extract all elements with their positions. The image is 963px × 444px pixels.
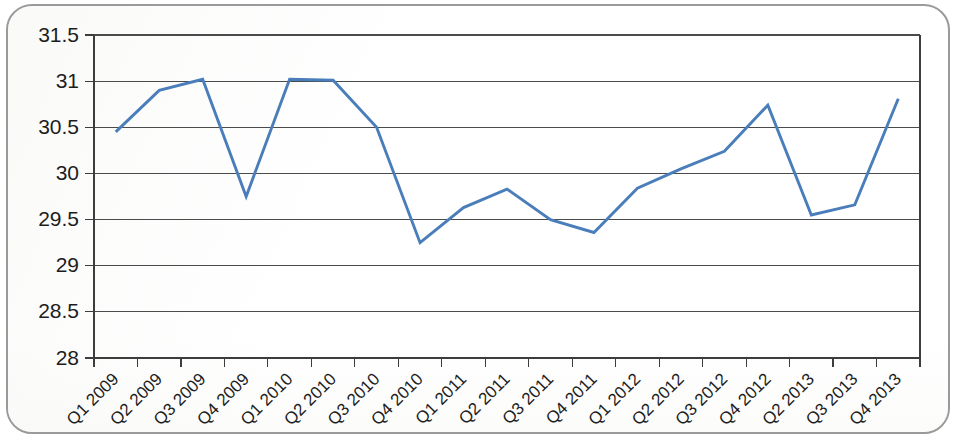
y-axis-tick-labels: 2828.52929.53030.53131.5	[38, 23, 79, 369]
gridlines-group	[94, 35, 920, 358]
y-axis-tick-label: 29	[56, 253, 79, 276]
data-series-line	[116, 79, 899, 242]
data-series-group	[116, 79, 899, 242]
axis-frame	[85, 35, 920, 358]
y-axis-tick-label: 30	[56, 161, 79, 184]
line-chart-plot: 2828.52929.53030.53131.5 Q1 2009Q2 2009Q…	[8, 6, 950, 434]
y-axis-tick-label: 28.5	[38, 299, 79, 322]
chart-card: 2828.52929.53030.53131.5 Q1 2009Q2 2009Q…	[6, 4, 950, 434]
y-axis-tick-label: 29.5	[38, 207, 79, 230]
x-axis-tick-labels: Q1 2009Q2 2009Q3 2009Q4 2009Q1 2010Q2 20…	[63, 369, 905, 429]
y-axis-tick-label: 31.5	[38, 23, 79, 46]
y-axis-tick-label: 30.5	[38, 115, 79, 138]
y-axis-tick-label: 31	[56, 69, 79, 92]
x-axis-tick-marks	[94, 358, 920, 367]
y-axis-tick-label: 28	[56, 346, 79, 369]
